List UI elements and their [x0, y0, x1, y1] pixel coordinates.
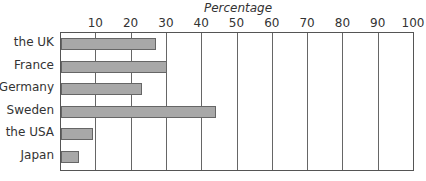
- x-tick-label: 10: [88, 16, 103, 30]
- category-label: Germany: [0, 80, 54, 94]
- bar: [61, 83, 142, 95]
- gridline: [95, 33, 96, 170]
- category-label: the UK: [14, 35, 54, 49]
- bar: [61, 38, 156, 50]
- x-tick-label: 70: [299, 16, 314, 30]
- chart-title: Percentage: [203, 1, 273, 15]
- gridline: [342, 33, 343, 170]
- gridline: [131, 33, 132, 170]
- x-tick-label: 100: [402, 16, 425, 30]
- bar: [61, 61, 167, 73]
- x-tick-label: 30: [158, 16, 173, 30]
- gridline: [272, 33, 273, 170]
- x-tick-label: 50: [229, 16, 244, 30]
- gridline: [307, 33, 308, 170]
- x-tick-label: 20: [123, 16, 138, 30]
- category-label: France: [14, 58, 54, 72]
- gridline: [201, 33, 202, 170]
- gridline: [166, 33, 167, 170]
- gridline: [378, 33, 379, 170]
- bar: [61, 151, 79, 163]
- category-label: Japan: [21, 148, 54, 162]
- x-tick-label: 80: [335, 16, 350, 30]
- category-label: the USA: [6, 125, 54, 139]
- x-tick-label: 90: [370, 16, 385, 30]
- bar: [61, 128, 93, 140]
- category-label: Sweden: [7, 103, 54, 117]
- gridline: [237, 33, 238, 170]
- x-tick-label: 60: [264, 16, 279, 30]
- plot-area: [60, 32, 414, 171]
- bar: [61, 106, 216, 118]
- x-tick-label: 40: [194, 16, 209, 30]
